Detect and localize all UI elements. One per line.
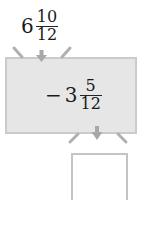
- answer-box[interactable]: [71, 153, 128, 200]
- input-right-guide-icon: [62, 48, 70, 57]
- input-left-guide-icon: [14, 48, 22, 57]
- input-down-arrow-icon: [36, 50, 47, 62]
- output-down-arrow-icon: [92, 126, 103, 140]
- output-right-guide-icon: [118, 134, 126, 142]
- output-left-guide-icon: [70, 134, 78, 142]
